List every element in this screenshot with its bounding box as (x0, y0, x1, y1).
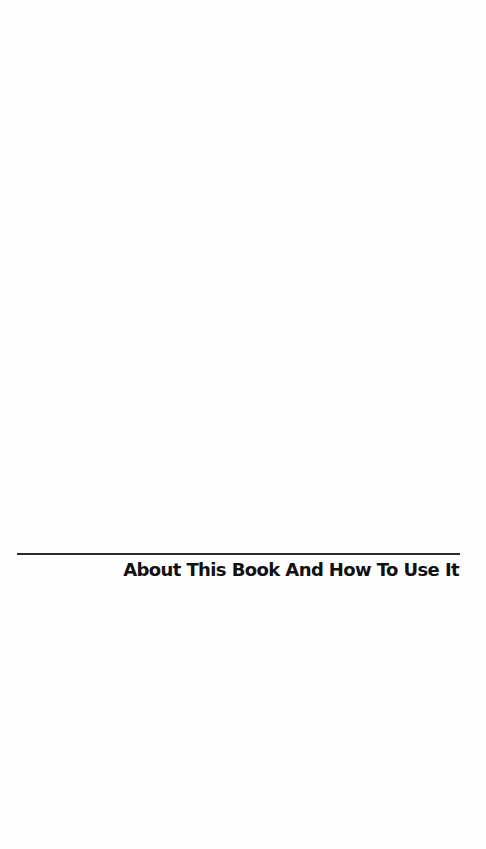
section-divider-rule (17, 553, 460, 555)
book-page: About This Book And How To Use It (0, 0, 486, 849)
section-heading: About This Book And How To Use It (123, 558, 459, 582)
